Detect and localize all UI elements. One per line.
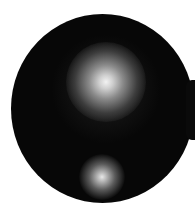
upper-bright-spot: [66, 42, 146, 122]
edge-bar: [186, 80, 195, 140]
lower-bright-spot: [79, 154, 125, 200]
circular-field-image: [11, 14, 194, 203]
